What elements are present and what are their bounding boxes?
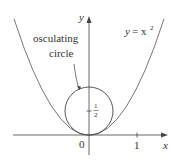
y-axis-arrow-icon bbox=[87, 16, 92, 23]
circle-label-line2: circle bbox=[49, 47, 74, 59]
label-pointer-line bbox=[74, 64, 79, 89]
x-axis-label: x bbox=[162, 139, 168, 151]
y-axis-label: y bbox=[78, 11, 84, 23]
origin-label: 0 bbox=[79, 138, 85, 150]
frac-numerator: 1 bbox=[94, 102, 98, 110]
circle-label-line1: osculating bbox=[33, 32, 79, 44]
x-tick-label-1: 1 bbox=[134, 139, 140, 151]
frac-denominator: 2 bbox=[94, 111, 98, 119]
x-axis-arrow-icon bbox=[161, 133, 168, 138]
curve-label-eq: = x bbox=[132, 25, 147, 37]
osculating-circle-diagram: osculating circle y = x 2 y x 0 1 1 2 bbox=[0, 0, 181, 163]
curve-label-exp: 2 bbox=[150, 24, 154, 32]
curve-label-y: y bbox=[124, 25, 130, 37]
